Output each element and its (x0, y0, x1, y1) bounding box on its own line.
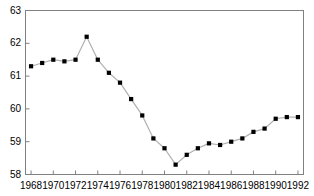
x-axis-tick-label: 1968 (19, 181, 43, 191)
y-axis-tick-label: 63 (3, 6, 21, 16)
x-axis-tick-label: 1990 (264, 181, 288, 191)
x-axis-tick-label: 1978 (130, 181, 154, 191)
data-markers (29, 35, 300, 167)
y-axis-tick-label: 60 (3, 104, 21, 114)
data-line (31, 37, 298, 165)
x-axis-tick-label: 1986 (219, 181, 243, 191)
y-axis-tick-label: 62 (3, 38, 21, 48)
x-axis-tick-label: 1980 (153, 181, 177, 191)
x-axis-tick-label: 1974 (86, 181, 110, 191)
y-axis-ticks (26, 11, 30, 175)
x-axis-tick-label: 1972 (64, 181, 88, 191)
y-axis-tick-label: 61 (3, 71, 21, 81)
x-axis-tick-label: 1982 (175, 181, 199, 191)
x-axis-tick-label: 1976 (108, 181, 132, 191)
x-axis-ticks (31, 171, 298, 175)
x-axis-tick-label: 1992 (286, 181, 310, 191)
x-axis-tick-label: 1970 (41, 181, 65, 191)
chart-plot-area (0, 0, 314, 196)
chart-figure: 585960616263 196819701972197419761978198… (0, 0, 314, 196)
x-axis-tick-label: 1984 (197, 181, 221, 191)
x-axis-tick-label: 1988 (241, 181, 265, 191)
y-axis-tick-label: 58 (3, 170, 21, 180)
y-axis-tick-label: 59 (3, 137, 21, 147)
